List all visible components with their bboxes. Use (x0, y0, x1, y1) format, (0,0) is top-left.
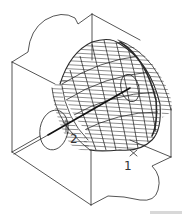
point-1-marker (130, 150, 137, 156)
hatched-band-right (110, 42, 175, 118)
watermark-bar (150, 211, 182, 214)
cube-edge-inner-left (12, 136, 40, 152)
label-point-2: 2 (70, 132, 78, 146)
cube-edge-top-left (12, 62, 55, 84)
break-line-top (12, 14, 92, 62)
cube-cutaway-diagram: 2 1 (0, 0, 184, 218)
cube-edge-top-right (92, 14, 140, 40)
cube-edge-bottom-left (12, 152, 91, 205)
label-point-1: 1 (124, 159, 132, 173)
